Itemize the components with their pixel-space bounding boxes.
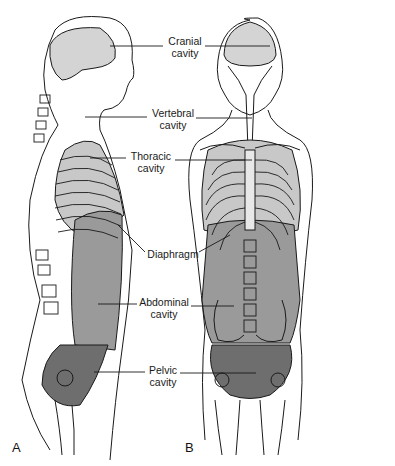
label-pelvic-cavity: Pelvic cavity	[146, 364, 180, 388]
panel-letter-a: A	[12, 440, 21, 455]
label-cranial-cavity: Cranial cavity	[163, 35, 207, 59]
anatomy-figure: Cranial cavity Vertebral cavity Thoracic…	[0, 0, 395, 466]
cranial-cavity-lateral	[50, 28, 116, 80]
label-abdominal-cavity: Abdominal cavity	[138, 296, 190, 320]
label-vertebral-cavity: Vertebral cavity	[148, 107, 198, 131]
lateral-view-figure	[22, 17, 134, 461]
body-cavities-illustration	[0, 0, 395, 466]
label-thoracic-cavity: Thoracic cavity	[127, 150, 175, 174]
pelvic-cavity-lateral	[42, 345, 108, 406]
anterior-view-figure	[189, 18, 313, 455]
label-diaphragm: Diaphragm	[145, 248, 201, 260]
abdominal-cavity-lateral	[72, 211, 123, 350]
panel-letter-b: B	[185, 440, 194, 455]
pelvic-cavity-anterior	[210, 345, 291, 399]
